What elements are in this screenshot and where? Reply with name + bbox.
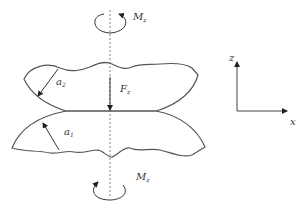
upper-radius-arrow bbox=[38, 69, 58, 96]
bottom-moment-label: Mz bbox=[135, 171, 150, 183]
upper-body bbox=[24, 62, 198, 111]
bottom-moment-arrow bbox=[94, 182, 126, 200]
upper-radius-label: a2 bbox=[56, 76, 66, 88]
lower-body bbox=[12, 111, 205, 157]
top-moment-label: Mz bbox=[132, 11, 147, 23]
contact-diagram: Mz Fz a2 a1 Mz z x bbox=[0, 0, 306, 210]
lower-radius-arrow bbox=[43, 123, 59, 150]
lower-radius-label: a1 bbox=[64, 126, 74, 138]
force-label: Fz bbox=[119, 83, 131, 95]
x-axis-label: x bbox=[290, 116, 296, 127]
z-axis-label: z bbox=[228, 52, 235, 63]
